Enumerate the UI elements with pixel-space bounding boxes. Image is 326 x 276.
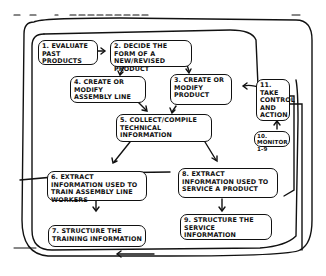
node-10-monitor: 10. Monitor 1-9: [254, 131, 290, 147]
node-label: 6. Extract information used to train ass…: [51, 174, 143, 204]
node-4-create-assembly-line: 4. Create or modify assembly line: [70, 76, 146, 103]
node-label: 7. Structure the training information: [52, 228, 142, 243]
node-label: 1. Evaluate past products: [42, 43, 94, 66]
node-5-collect-technical-info: 5. Collect/compile technical information: [116, 114, 212, 142]
node-11-take-control: 11. Take control and action: [256, 79, 290, 121]
node-label: 8. Extract information used to service a…: [182, 171, 274, 194]
node-label: 2. Decide the form of a new/revised prod…: [114, 43, 188, 73]
node-label: 4. Create or modify assembly line: [74, 79, 142, 102]
node-6-extract-training-info: 6. Extract information used to train ass…: [47, 171, 147, 201]
node-label: 11. Take control and action: [260, 82, 286, 120]
node-label: 9. Structure the service information: [184, 217, 268, 240]
node-1-evaluate-past-products: 1. Evaluate past products: [38, 40, 98, 65]
node-2-decide-form: 2. Decide the form of a new/revised prod…: [110, 40, 192, 67]
node-7-structure-training-info: 7. Structure the training information: [48, 225, 146, 247]
node-8-extract-service-info: 8. Extract information used to service a…: [178, 168, 278, 198]
node-label: 10. Monitor 1-9: [257, 133, 287, 152]
node-label: 5. Collect/compile technical information: [120, 117, 208, 140]
node-label: 3. Create or modify product: [174, 77, 228, 100]
node-3-create-product: 3. Create or modify product: [170, 74, 232, 105]
node-9-structure-service-info: 9. Structure the service information: [180, 214, 272, 240]
